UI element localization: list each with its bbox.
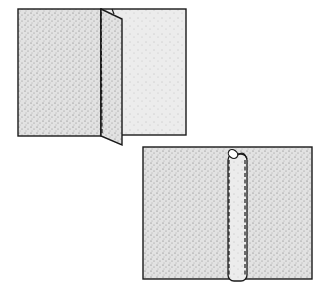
fabric-left — [18, 9, 101, 136]
panel-step-1 — [18, 9, 186, 145]
seam-diagram — [0, 0, 329, 302]
seam-tube — [228, 154, 247, 281]
seam-flap — [101, 9, 122, 145]
panel-step-2 — [143, 147, 312, 281]
